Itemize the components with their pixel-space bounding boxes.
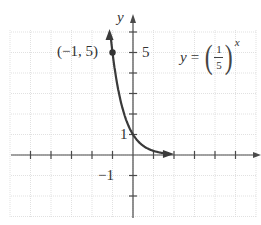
tick-label-5: 5 (142, 45, 150, 60)
tick-label-neg1: −1 (98, 168, 114, 183)
left-paren: ( (205, 40, 213, 74)
tick-label-1: 1 (120, 127, 128, 142)
fraction-denominator: 5 (216, 59, 222, 71)
right-paren: ) (225, 40, 233, 74)
point-marker (109, 49, 115, 55)
equation-label: y = ( 1 5 ) x (180, 40, 240, 74)
point-label: (−1, 5) (57, 44, 98, 59)
equation-lhs: y (180, 49, 187, 66)
fraction-numerator: 1 (216, 43, 222, 55)
equation-exponent: x (235, 36, 240, 48)
fraction-bar (214, 57, 223, 58)
fraction: 1 5 (214, 43, 223, 70)
y-axis-label: y (117, 10, 124, 25)
equation-equals: = (191, 49, 199, 66)
exponential-graph (0, 0, 261, 225)
curve-arrow-right-icon (163, 150, 174, 158)
